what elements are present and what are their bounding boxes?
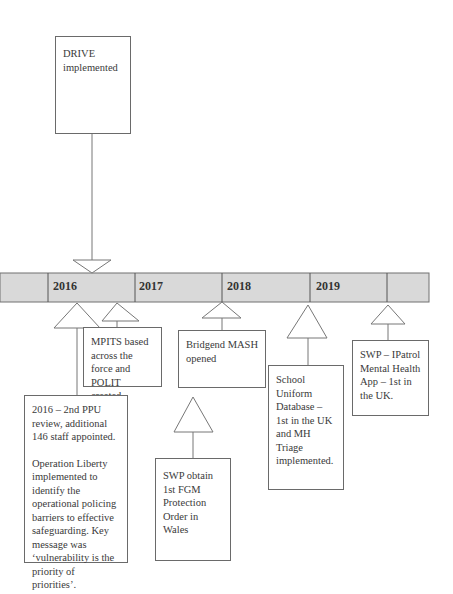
event-text: MPITS based across the force and POLIT c… (91, 335, 155, 403)
year-label-2018: 2018 (227, 279, 251, 294)
drive-down-triangle-icon (73, 260, 111, 273)
event-text: Bridgend MASH opened (186, 338, 259, 365)
event-text-para-1: 2016 – 2nd PPU review, additional 146 st… (32, 403, 121, 444)
event-box-drive: DRIVE implemented (55, 36, 131, 134)
year-label-2019: 2019 (316, 279, 340, 294)
school-up-triangle-icon (287, 305, 327, 338)
year-label-2017: 2017 (139, 279, 163, 294)
event-box-ppu-review: 2016 – 2nd PPU review, additional 146 st… (24, 395, 128, 563)
bridgend-up-triangle-icon (202, 302, 241, 318)
event-text: SWP obtain 1st FGM Protection Order in W… (163, 469, 224, 537)
event-text-para-2: Operation Liberty implemented to identif… (32, 457, 121, 592)
event-box-bridgend-mash: Bridgend MASH opened (178, 330, 266, 388)
ppu-up-triangle-icon (54, 303, 100, 328)
mpits-up-triangle-icon (102, 303, 139, 321)
event-box-school-uniform: School Uniform Database – 1st in the UK … (268, 365, 344, 490)
event-text: DRIVE implemented (63, 47, 124, 74)
ipatrol-up-triangle-icon (371, 305, 405, 324)
event-box-ipatrol: SWP – IPatrol Mental Health App – 1st in… (352, 340, 429, 416)
event-box-fgm-order: SWP obtain 1st FGM Protection Order in W… (155, 458, 231, 561)
fgm-up-triangle-icon (174, 397, 213, 432)
event-box-mpits: MPITS based across the force and POLIT c… (83, 327, 162, 387)
year-label-2016: 2016 (53, 279, 77, 294)
event-text: SWP – IPatrol Mental Health App – 1st in… (360, 348, 422, 402)
event-text: School Uniform Database – 1st in the UK … (276, 373, 337, 468)
